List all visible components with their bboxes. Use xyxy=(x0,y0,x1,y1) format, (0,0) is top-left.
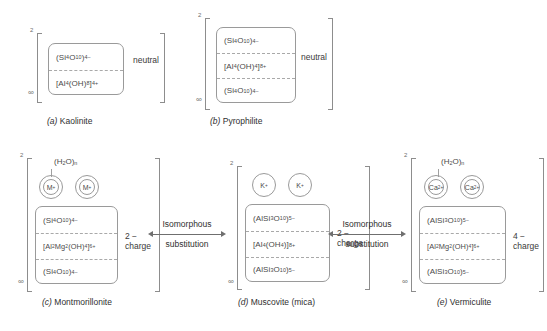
bracket-subscript-kaolinite: ∞ xyxy=(28,89,34,97)
caption-name: Montmorillonite xyxy=(54,297,112,307)
cation-label: M+ xyxy=(79,179,95,195)
panel-pyrophilite: 2 ∞ (Si4O10)4− [Al4(OH)4]8+ (Si4O10)4− n… xyxy=(196,12,324,104)
charge-label-vermiculite: 4 − charge xyxy=(513,232,539,252)
cation-label: M+ xyxy=(43,179,59,195)
arrow-right-group: Isomorphous substitution xyxy=(328,219,406,250)
cation-circle: Ca2+ xyxy=(424,175,448,199)
caption-name: Vermiculite xyxy=(450,297,492,307)
layer-row: (AlSi3O10)5− xyxy=(420,259,505,283)
layer-row: (AlSi3O10)5− xyxy=(246,257,329,281)
bracket-superscript-kaolinite: 2 xyxy=(30,27,33,33)
caption-name: Pyrophilite xyxy=(223,116,263,126)
charge-label-kaolinite: neutral xyxy=(133,56,159,66)
cation-label: K+ xyxy=(256,177,272,193)
arrow-label-line2: substitution xyxy=(328,239,406,250)
layer-row: [Al4(OH)8]4+ xyxy=(49,70,123,95)
montmorillonite-layer-stack: (Si4O10)4− [Al2Mg2(OH)4]6+ (Si4O10)4− xyxy=(35,206,118,284)
vermiculite-layer-stack: (AlSi3O10)5− [Al2Mg2(OH)4]6+ (AlSi3O10)5… xyxy=(419,206,506,284)
arrow-left-icon xyxy=(148,230,226,239)
bracket-superscript-montmorillonite: 2 xyxy=(20,152,23,158)
kaolinite-bracket: (Si4O10)4− [Al4(OH)8]4+ neutral xyxy=(37,33,165,103)
arrow-right-icon xyxy=(328,230,406,239)
cation-label: Ca2+ xyxy=(428,179,444,195)
arrow-label-line1: Isomorphous xyxy=(328,219,406,230)
panel-vermiculite: 2 ∞ (H2O)n Ca2+ Ca2+ (AlSi3O10)5− [Al2Mg… xyxy=(402,150,535,284)
cation-circle: K+ xyxy=(252,173,276,197)
layer-row: [Al2Mg2(OH)4]6+ xyxy=(36,233,117,259)
panel-montmorillonite: 2 ∞ (H2O)n M+ M+ (Si4O10)4− [Al2Mg2(OH)4… xyxy=(18,150,151,284)
layer-row: (Si4O10)4− xyxy=(36,207,117,233)
caption-tag: (a) xyxy=(47,116,57,126)
caption-vermiculite: (e) Vermiculite xyxy=(437,297,491,307)
montmorillonite-bracket: (H2O)n M+ M+ (Si4O10)4− [Al2Mg2(OH)4]6+ … xyxy=(27,158,160,292)
caption-tag: (d) xyxy=(238,297,248,307)
layer-row: (Si4O10)4− xyxy=(49,44,123,70)
caption-muscovite: (d) Muscovite (mica) xyxy=(238,297,315,307)
muscovite-layer-stack: (AlSi3O10)5− [Al4(OH4)]8+ (AlSi3O10)5− xyxy=(245,204,330,282)
layer-row: (Si4O10)4− xyxy=(36,259,117,283)
pyrophilite-layer-stack: (Si4O10)4− [Al4(OH)4]8+ (Si4O10)4− xyxy=(216,27,296,103)
layer-row: (AlSi3O10)5− xyxy=(246,205,329,231)
bracket-subscript-muscovite: ∞ xyxy=(228,278,234,286)
layer-row: (Si4O10)4− xyxy=(217,78,295,102)
clay-mineral-structures-figure: 2 ∞ (Si4O10)4− [Al4(OH)8]4+ neutral (a) … xyxy=(0,0,547,331)
bracket-subscript-montmorillonite: ∞ xyxy=(18,278,24,286)
caption-tag: (e) xyxy=(437,297,447,307)
caption-pyrophilite: (b) Pyrophilite xyxy=(210,116,262,126)
water-label-montmorillonite: (H2O)n xyxy=(54,157,77,166)
cation-circle: M+ xyxy=(39,175,63,199)
arrow-label-line2: substitution xyxy=(148,239,226,250)
caption-name: Muscovite (mica) xyxy=(251,297,315,307)
bracket-superscript-vermiculite: 2 xyxy=(404,152,407,158)
vermiculite-bracket: (H2O)n Ca2+ Ca2+ (AlSi3O10)5− [Al2Mg2(OH… xyxy=(411,158,544,292)
arrow-left-group: Isomorphous substitution xyxy=(148,219,226,250)
kaolinite-layer-stack: (Si4O10)4− [Al4(OH)8]4+ xyxy=(48,43,124,95)
layer-row: [Al4(OH4)]8+ xyxy=(246,231,329,257)
layer-row: [Al4(OH)4]8+ xyxy=(217,53,295,78)
caption-name: Kaolinite xyxy=(60,116,93,126)
layer-row: [Al2Mg2(OH)4]6+ xyxy=(420,233,505,259)
cation-circle: K+ xyxy=(288,173,312,197)
pyrophilite-bracket: (Si4O10)4− [Al4(OH)4]8+ (Si4O10)4− neutr… xyxy=(205,18,333,110)
charge-word: charge xyxy=(513,242,539,252)
cation-circle: M+ xyxy=(75,175,99,199)
layer-row: (AlSi3O10)5− xyxy=(420,207,505,233)
caption-tag: (c) xyxy=(42,297,52,307)
bracket-subscript-pyrophilite: ∞ xyxy=(196,96,202,104)
cation-circle: Ca2+ xyxy=(460,175,484,199)
cation-label: Ca2+ xyxy=(464,179,480,195)
water-label-vermiculite: (H2O)n xyxy=(441,157,464,166)
bracket-superscript-pyrophilite: 2 xyxy=(198,12,201,18)
caption-montmorillonite: (c) Montmorillonite xyxy=(42,297,112,307)
arrow-label-line1: Isomorphous xyxy=(148,219,226,230)
caption-kaolinite: (a) Kaolinite xyxy=(47,116,92,126)
bracket-subscript-vermiculite: ∞ xyxy=(402,278,408,286)
cation-label: K+ xyxy=(292,177,308,193)
bracket-superscript-muscovite: 2 xyxy=(230,160,233,166)
panel-kaolinite: 2 ∞ (Si4O10)4− [Al4(OH)8]4+ neutral xyxy=(28,27,156,97)
caption-tag: (b) xyxy=(210,116,220,126)
layer-row: (Si4O10)4− xyxy=(217,28,295,53)
charge-label-pyrophilite: neutral xyxy=(301,53,327,63)
